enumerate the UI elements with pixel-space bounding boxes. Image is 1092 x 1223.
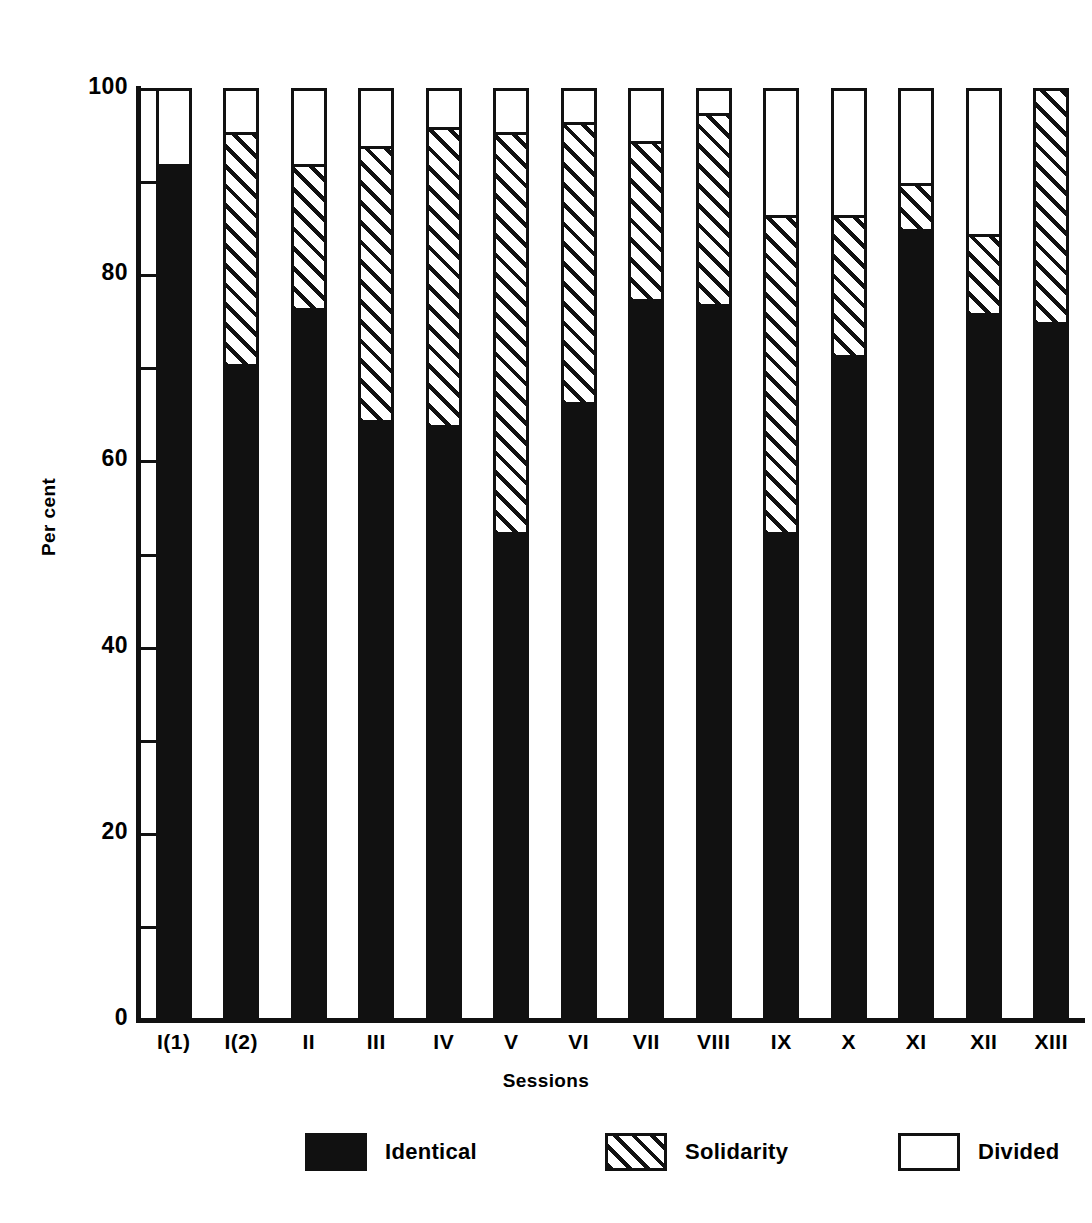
bar-IV[interactable]	[426, 88, 462, 1019]
bar-X[interactable]	[831, 88, 867, 1019]
legend-swatch-solidarity-icon	[605, 1133, 667, 1171]
segment-solidarity-VII	[628, 141, 664, 299]
segment-divided-III	[358, 88, 394, 146]
segment-identical-II	[291, 308, 327, 1019]
segment-solidarity-VI	[561, 122, 597, 401]
bar-XI[interactable]	[898, 88, 934, 1019]
segment-divided-VII	[628, 88, 664, 141]
bar-VI[interactable]	[561, 88, 597, 1019]
legend-swatch-identical-icon	[305, 1133, 367, 1171]
segment-identical-XII	[966, 313, 1002, 1019]
bar-V[interactable]	[493, 88, 529, 1019]
stacked-bar-chart: Per cent Sessions 020406080100 I(1)I(2)I…	[0, 0, 1092, 1223]
segment-divided-X	[831, 88, 867, 215]
segment-identical-XIII	[1033, 322, 1069, 1019]
y-tick-0	[141, 1019, 169, 1022]
bar-III[interactable]	[358, 88, 394, 1019]
segment-identical-I(1)	[156, 164, 192, 1019]
legend-label-solidarity: Solidarity	[685, 1139, 788, 1165]
segment-solidarity-III	[358, 146, 394, 421]
legend-item-divided[interactable]: Divided	[898, 1133, 1060, 1171]
segment-identical-III	[358, 420, 394, 1019]
segment-divided-XI	[898, 88, 934, 183]
x-tick-label-XIII: XIII	[991, 1030, 1092, 1054]
legend-item-solidarity[interactable]: Solidarity	[605, 1133, 788, 1171]
y-tick-label-20: 20	[101, 820, 128, 843]
segment-divided-V	[493, 88, 529, 132]
segment-solidarity-XIII	[1033, 88, 1069, 322]
segment-divided-VIII	[696, 88, 732, 113]
bar-VII[interactable]	[628, 88, 664, 1019]
segment-identical-VII	[628, 299, 664, 1019]
y-tick-label-0: 0	[115, 1006, 128, 1029]
y-tick-label-100: 100	[88, 75, 128, 98]
y-axis-title: Per cent	[38, 478, 60, 556]
segment-divided-IX	[763, 88, 799, 215]
segment-solidarity-XI	[898, 183, 934, 230]
segment-identical-IX	[763, 532, 799, 1019]
segment-divided-I(2)	[223, 88, 259, 132]
segment-solidarity-VIII	[696, 113, 732, 304]
segment-identical-IV	[426, 425, 462, 1019]
bar-XIII[interactable]	[1033, 88, 1069, 1019]
segment-identical-XI	[898, 229, 934, 1019]
legend-item-identical[interactable]: Identical	[305, 1133, 477, 1171]
legend-swatch-divided-icon	[898, 1133, 960, 1171]
segment-identical-V	[493, 532, 529, 1019]
segment-divided-IV	[426, 88, 462, 127]
segment-divided-VI	[561, 88, 597, 122]
segment-solidarity-V	[493, 132, 529, 532]
y-tick-label-80: 80	[101, 261, 128, 284]
segment-divided-II	[291, 88, 327, 164]
segment-identical-VIII	[696, 304, 732, 1019]
segment-solidarity-IV	[426, 127, 462, 425]
segment-divided-I(1)	[156, 88, 192, 164]
bar-II[interactable]	[291, 88, 327, 1019]
bar-I(2)[interactable]	[223, 88, 259, 1019]
segment-identical-VI	[561, 402, 597, 1019]
plot-area	[140, 88, 1085, 1019]
bar-IX[interactable]	[763, 88, 799, 1019]
bar-I(1)[interactable]	[156, 88, 192, 1019]
bar-XII[interactable]	[966, 88, 1002, 1019]
segment-identical-X	[831, 355, 867, 1019]
y-tick-label-60: 60	[101, 447, 128, 470]
bar-VIII[interactable]	[696, 88, 732, 1019]
chart-legend: IdenticalSolidarityDivided	[0, 1133, 1092, 1193]
segment-divided-XII	[966, 88, 1002, 234]
segment-identical-I(2)	[223, 364, 259, 1019]
segment-solidarity-X	[831, 215, 867, 355]
y-tick-label-40: 40	[101, 634, 128, 657]
segment-solidarity-I(2)	[223, 132, 259, 365]
segment-solidarity-II	[291, 164, 327, 308]
x-axis-title: Sessions	[0, 1070, 1092, 1092]
legend-label-divided: Divided	[978, 1139, 1060, 1165]
segment-solidarity-IX	[763, 215, 799, 532]
segment-solidarity-XII	[966, 234, 1002, 313]
legend-label-identical: Identical	[385, 1139, 477, 1165]
